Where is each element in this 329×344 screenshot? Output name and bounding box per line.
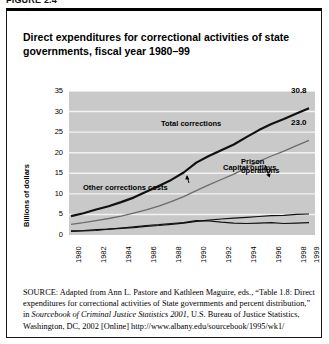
x-tick-1984: 1984 [124, 246, 133, 263]
x-tick-1992: 1992 [224, 246, 233, 263]
y-tick-0: 0 [39, 230, 63, 239]
x-tick-1996: 1996 [274, 246, 283, 263]
source-italic-1: Sourcebook of Criminal Justice Statistic… [32, 310, 187, 319]
figure-container: FIGURE 2.4 Direct expenditures for corre… [0, 0, 329, 344]
x-tick-1990: 1990 [199, 246, 208, 263]
chart: Billions of dollars 35302520151050 Total… [7, 73, 323, 278]
series-line-3 [71, 221, 309, 232]
figure-title: Direct expenditures for correctional act… [23, 31, 313, 58]
y-tick-25: 25 [39, 127, 63, 136]
x-tick-1980: 1980 [74, 246, 83, 263]
annotation-capital-outlays: Capital outlays [223, 163, 276, 172]
x-tick-1986: 1986 [149, 246, 158, 263]
x-tick-1982: 1982 [99, 246, 108, 263]
source-label: SOURCE: [23, 288, 58, 297]
y-tick-15: 15 [39, 168, 63, 177]
y-axis-ticks: 35302520151050 [37, 73, 63, 218]
x-tick-1994: 1994 [249, 246, 258, 263]
x-axis-ticks: 1980198219841986198819901992199419961998… [69, 237, 315, 277]
plot-area: Total corrections Prison operations Othe… [69, 91, 315, 235]
arrowhead-other-corrections [185, 175, 189, 180]
x-tick-1999: 1999 [312, 246, 321, 263]
y-tick-20: 20 [39, 148, 63, 157]
x-tick-1998: 1998 [299, 246, 308, 263]
figure-panel: Direct expenditures for correctional act… [6, 8, 322, 338]
annotation-other-corrections-costs: Other corrections costs [83, 183, 168, 192]
annotation-total-corrections: Total corrections [161, 119, 221, 128]
figure-number: FIGURE 2.4 [6, 0, 57, 5]
y-axis-label: Billions of dollars [22, 151, 31, 241]
source-note: SOURCE: Adapted from Ann L. Pastore and … [23, 287, 315, 332]
value-label-prison-operations: 23.0 [291, 118, 307, 127]
y-tick-35: 35 [39, 86, 63, 95]
y-tick-5: 5 [39, 209, 63, 218]
x-tick-1988: 1988 [174, 246, 183, 263]
y-tick-10: 10 [39, 189, 63, 198]
value-label-total-corrections: 30.8 [291, 86, 307, 95]
y-tick-30: 30 [39, 107, 63, 116]
